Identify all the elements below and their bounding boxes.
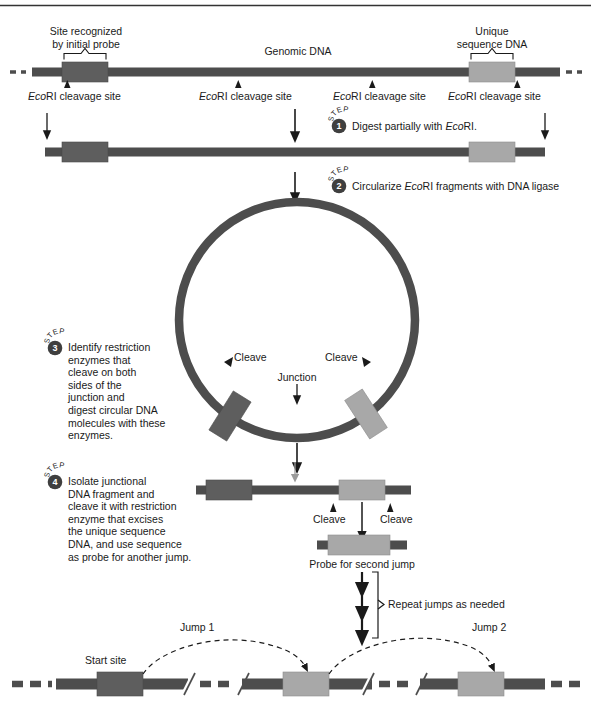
repeat-jumps-group [362, 572, 384, 638]
step-3-line-2: enzymes that [68, 354, 190, 367]
probe-fragment [317, 535, 407, 555]
circularized-dna [179, 202, 415, 441]
step-3-number: 3 [52, 343, 57, 353]
unique-bracket [471, 49, 513, 60]
circle-cleave-marker-right [362, 357, 371, 367]
step-4-line-5: the unique sequence [68, 525, 210, 538]
probe-site-block [62, 62, 108, 82]
fragment-probe-block [62, 142, 108, 162]
step-2-number: 2 [336, 181, 341, 191]
step-1-text: Digest partially with EcoRI. [352, 120, 477, 133]
fragment-cleave-marker-right [387, 503, 394, 512]
repeat-bracket-tip [378, 600, 384, 609]
fragment-unique-block [469, 142, 515, 162]
step-3-line-6: digest circular DNA [68, 404, 190, 417]
step-4-line-1: Isolate junctional [68, 475, 210, 488]
step-3-text: Identify restriction enzymes that cleave… [68, 341, 190, 442]
jump1-label: Jump 1 [180, 621, 214, 634]
step-3-line-8: enzymes. [68, 429, 190, 442]
chromosome-start-block [97, 672, 143, 696]
chromosome-jump1-block [283, 672, 329, 696]
cleavage-site-label-2: EcoRI cleavage site [199, 90, 292, 103]
circle-probe-block [209, 391, 251, 441]
step-4-line-3: cleave it with restriction [68, 500, 210, 513]
step-4-line-6: DNA, and use sequence [68, 538, 210, 551]
junction-probe-block [206, 480, 252, 500]
unique-sequence-block [469, 62, 515, 82]
jump2-label: Jump 2 [472, 621, 506, 634]
cleavage-marker-3 [369, 80, 376, 88]
step-3-line-7: molecules with these [68, 417, 190, 430]
probe-bracket [64, 49, 106, 60]
step-4-number: 4 [52, 477, 57, 487]
fragment-cleave-marker-left [330, 503, 337, 512]
row3-junctional-fragment [196, 462, 411, 536]
fragment-cleave-label-left: Cleave [313, 513, 346, 526]
cleavage-site-label-4: EcoRI cleavage site [448, 90, 541, 103]
unique-sequence-label: Unique sequence DNA [440, 25, 544, 50]
chromosome-jump2-block [458, 672, 504, 696]
cleavage-site-label-1: EcoRI cleavage site [28, 90, 121, 103]
step-4-line-7: as probe for another jump. [68, 551, 210, 564]
row2-digested-fragment [45, 142, 545, 162]
jump2-curve [329, 638, 493, 674]
junction-unique-block [339, 480, 385, 500]
jump1-curve [143, 640, 306, 674]
step-3-line-3: cleave on both [68, 366, 190, 379]
circle-unique-block [345, 389, 388, 439]
step-3-line-5: junction and [68, 391, 190, 404]
repeat-jumps-caption: Repeat jumps as needed [388, 598, 505, 611]
fragment-cleave-label-right: Cleave [380, 513, 413, 526]
circle-cleave-marker-left [224, 357, 233, 367]
bottom-chromosome [12, 638, 582, 696]
junction-label: Junction [267, 371, 327, 384]
probe-site-label: Site recognized by initial probe [34, 25, 138, 50]
circle-cleave-label-right: Cleave [325, 351, 358, 364]
step-3-line-4: sides of the [68, 379, 190, 392]
cleavage-marker-2 [235, 80, 242, 88]
cleavage-site-label-3: EcoRI cleavage site [333, 90, 426, 103]
probe-caption: Probe for second jump [282, 558, 442, 571]
step-2-text: Circularize EcoRI fragments with DNA lig… [352, 180, 559, 193]
circle-cleave-label-left: Cleave [234, 351, 267, 364]
step-4-text: Isolate junctional DNA fragment and clea… [68, 475, 210, 563]
dna-circle [179, 202, 415, 438]
step-4-line-4: enzyme that excises [68, 513, 210, 526]
probe-unique-block [328, 535, 390, 555]
figure-canvas: STEP STEP STEP STEP 1 2 3 4 Site recogni… [0, 0, 591, 705]
genomic-dna-label: Genomic DNA [243, 45, 353, 58]
repeat-bracket [372, 572, 378, 638]
start-site-label: Start site [85, 654, 126, 667]
step-4-line-2: DNA fragment and [68, 488, 210, 501]
step-3-line-1: Identify restriction [68, 341, 190, 354]
step-1-number: 1 [336, 121, 341, 131]
